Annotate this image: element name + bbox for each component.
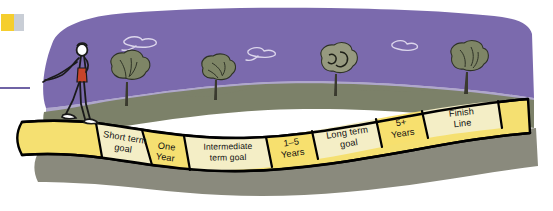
illustration-canvas: Short term goal One Year Intermediate te… [0,0,553,211]
page-edge-markers [0,14,30,89]
road-segment-one-year[interactable]: One Year [155,140,176,163]
segment-label-line-2: Line [453,118,472,130]
segment-label-line-1: Intermediate [203,141,252,152]
segment-label-line-1: 5+ [395,117,407,129]
person-head [77,44,88,56]
edge-rule [0,87,30,89]
goal-road-illustration: Short term goal One Year Intermediate te… [0,0,553,211]
segment-label-line-1: One [157,140,176,152]
road-segment-intermediate-term-goal[interactable]: Intermediate term goal [203,141,252,163]
person-garment [77,68,87,82]
corner-marker-gray [14,14,24,31]
segment-label-line-2: term goal [210,152,247,163]
corner-marker-yellow [1,14,14,31]
